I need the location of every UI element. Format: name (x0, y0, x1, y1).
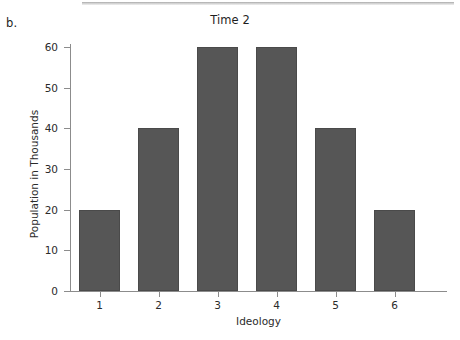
x-tick-label: 6 (375, 299, 415, 311)
y-axis-line (70, 44, 71, 292)
x-tick-mark (159, 292, 160, 297)
x-tick-mark (395, 292, 396, 297)
y-tick-mark (64, 210, 70, 211)
x-tick-mark (277, 292, 278, 297)
y-tick-mark (64, 47, 70, 48)
bar-1 (79, 210, 120, 291)
x-tick-label: 2 (139, 299, 179, 311)
bar-2 (138, 128, 179, 291)
x-tick-mark (218, 292, 219, 297)
x-tick-mark (100, 292, 101, 297)
y-tick-mark (64, 291, 70, 292)
y-tick-mark (64, 128, 70, 129)
plot-area: 0102030405060 123456 Ideology Population… (0, 0, 460, 340)
bar-5 (315, 128, 356, 291)
bar-6 (374, 210, 415, 291)
x-tick-label: 3 (198, 299, 238, 311)
y-axis-title: Population in Thousands (28, 64, 40, 284)
x-tick-mark (336, 292, 337, 297)
y-tick-mark (64, 169, 70, 170)
x-axis-title: Ideology (70, 315, 447, 327)
x-tick-label: 5 (316, 299, 356, 311)
bar-3 (197, 47, 238, 291)
x-axis-line (70, 291, 447, 292)
bar-4 (256, 47, 297, 291)
figure-panel-b: b. Time 2 0102030405060 123456 Ideology … (0, 0, 460, 340)
y-tick-label: 60 (0, 41, 58, 53)
x-tick-label: 4 (257, 299, 297, 311)
x-tick-label: 1 (80, 299, 120, 311)
y-tick-mark (64, 250, 70, 251)
y-tick-label: 0 (0, 285, 58, 297)
y-tick-mark (64, 88, 70, 89)
